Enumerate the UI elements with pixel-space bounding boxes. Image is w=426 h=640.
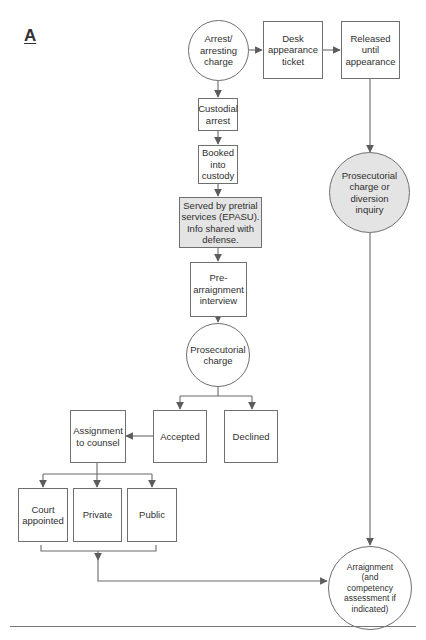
node-declined: Declined (224, 410, 278, 463)
node-public: Public (127, 488, 177, 542)
node-prearraignment-label: Pre- arraignment interview (193, 272, 244, 307)
node-assignment-label: Assignment to counsel (73, 425, 123, 448)
node-released-label: Released until appearance (345, 33, 395, 68)
node-booked-into-custody: Booked into custody (198, 145, 238, 184)
edge-counsel-arraignment (98, 560, 327, 581)
node-desk-appearance-ticket: Desk appearance ticket (263, 21, 323, 79)
node-custodial-label: Custodial arrest (198, 103, 238, 126)
counsel-bracket (41, 545, 156, 551)
node-booked-label: Booked into custody (202, 147, 235, 182)
node-accepted: Accepted (153, 410, 207, 463)
node-diversion-label: Prosecutorial charge or diversion inquir… (342, 170, 397, 216)
node-prosecutorial-charge: Prosecutorial charge (186, 323, 250, 387)
node-desk-label: Desk appearance ticket (268, 33, 318, 68)
node-assignment-to-counsel: Assignment to counsel (70, 410, 126, 463)
node-diversion-inquiry: Prosecutorial charge or diversion inquir… (329, 152, 410, 233)
node-declined-label: Declined (233, 431, 270, 443)
node-pretrial-label: Served by pretrial services (EPASU). Inf… (182, 200, 260, 246)
node-arraignment: Arraignment (and competency assessment i… (328, 546, 412, 630)
node-court-appointed: Court appointed (18, 488, 68, 542)
node-released-until-appearance: Released until appearance (341, 21, 400, 79)
node-private-label: Private (83, 509, 113, 521)
bottom-divider (10, 626, 416, 627)
node-private: Private (73, 488, 122, 542)
node-arrest: Arrest/ arresting charge (188, 20, 249, 81)
node-arrest-label: Arrest/ arresting charge (200, 33, 237, 68)
node-court-label: Court appointed (22, 504, 64, 527)
flowchart-edges (0, 0, 426, 640)
node-pretrial-services: Served by pretrial services (EPASU). Inf… (179, 197, 262, 248)
node-accepted-label: Accepted (160, 431, 200, 443)
node-custodial-arrest: Custodial arrest (198, 98, 238, 131)
node-public-label: Public (139, 509, 165, 521)
node-prosecutorial-label: Prosecutorial charge (190, 344, 245, 367)
node-arraignment-label: Arraignment (and competency assessment i… (344, 562, 396, 615)
node-pre-arraignment-interview: Pre- arraignment interview (190, 262, 247, 317)
